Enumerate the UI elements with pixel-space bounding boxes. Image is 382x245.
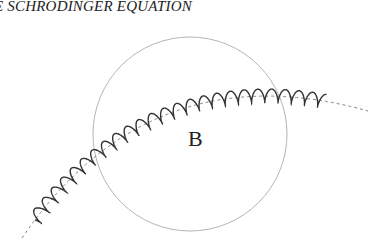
- region-label-b: B: [188, 126, 203, 152]
- scattering-diagram: [0, 0, 382, 245]
- wave-packet-path: [34, 89, 327, 223]
